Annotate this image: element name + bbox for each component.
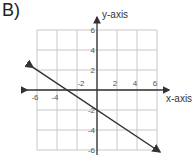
x-tick-label: 4 <box>133 79 138 88</box>
x-tick-label: -6 <box>31 93 39 102</box>
x-axis-label: x-axis <box>166 93 192 104</box>
y-tick-label: 2 <box>91 66 96 75</box>
coordinate-plane-chart: -6-4-2246-6-4-2246x-axisy-axis <box>0 0 196 160</box>
x-tick-label: 6 <box>153 79 158 88</box>
x-tick-label: -2 <box>77 79 85 88</box>
y-axis-label: y-axis <box>102 9 128 20</box>
y-tick-label: -6 <box>88 146 96 155</box>
x-tick-label: -4 <box>51 93 59 102</box>
y-tick-label: -4 <box>88 126 96 135</box>
x-tick-label: 2 <box>113 79 118 88</box>
y-tick-label: 6 <box>91 26 96 35</box>
y-tick-label: 4 <box>91 46 96 55</box>
